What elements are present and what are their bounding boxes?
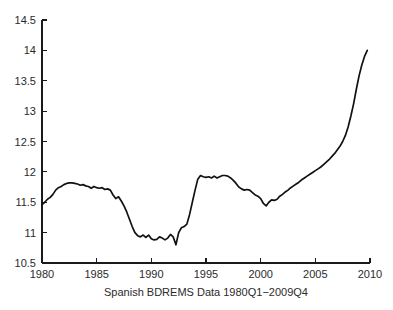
y-tick-label: 14	[24, 44, 36, 56]
y-tick-label: 13.5	[15, 75, 36, 87]
x-tick-label: 2005	[303, 268, 327, 280]
x-tick-label: 2010	[358, 268, 382, 280]
x-tick-label: 1990	[139, 268, 163, 280]
y-tick-label: 11.5	[15, 196, 36, 208]
y-tick-label: 11	[25, 227, 36, 239]
x-tick-label: 1980	[30, 268, 54, 280]
chart-figure: 10.51111.51212.51313.51414.5 19801985199…	[0, 0, 393, 310]
x-tick-label: 1985	[84, 268, 108, 280]
chart-caption: Spanish BDREMS Data 1980Q1−2009Q4	[104, 286, 308, 298]
y-tick-label: 14.5	[15, 14, 36, 26]
x-tick-label: 2000	[248, 268, 272, 280]
line-chart: 10.51111.51212.51313.51414.5 19801985199…	[0, 0, 393, 310]
x-tick-label: 1995	[194, 268, 218, 280]
y-tick-label: 13	[24, 105, 36, 117]
y-tick-label: 12.5	[15, 136, 36, 148]
y-tick-label: 12	[24, 166, 36, 178]
